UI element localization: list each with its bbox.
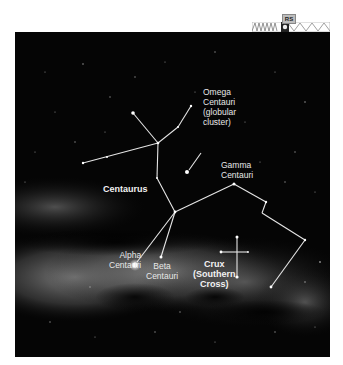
- badge-icon: RS: [282, 14, 296, 24]
- label-centaurus: Centaurus: [103, 184, 148, 194]
- label-crux: Crux (Southern Cross): [193, 259, 236, 289]
- star-field-photo: Omega Centauri (globular cluster) Centau…: [15, 32, 330, 357]
- label-gamma-centauri: Gamma Centauri: [221, 160, 253, 180]
- label-beta-centauri: Beta Centauri: [146, 261, 178, 281]
- star-chart: [15, 32, 330, 357]
- label-alpha-centauri: Alpha Centauri: [109, 250, 141, 270]
- label-omega-centauri: Omega Centauri (globular cluster): [203, 87, 236, 127]
